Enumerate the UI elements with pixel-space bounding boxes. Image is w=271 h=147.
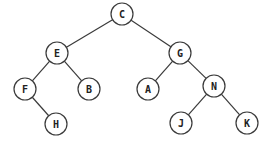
tree-node-f: F <box>14 78 36 100</box>
edge-f-h <box>32 97 48 116</box>
tree-diagram: CEGFBANHJK <box>0 0 271 147</box>
node-label: E <box>54 48 60 59</box>
edge-g-n <box>188 61 206 79</box>
edge-n-k <box>221 94 239 115</box>
edge-c-g <box>131 20 171 47</box>
edge-n-j <box>188 94 206 115</box>
edge-g-a <box>155 61 172 81</box>
node-label: H <box>53 119 59 130</box>
tree-node-c: C <box>111 3 133 25</box>
node-label: C <box>119 9 125 20</box>
node-label: B <box>86 84 92 95</box>
tree-node-b: B <box>78 78 100 100</box>
edge-c-e <box>66 20 112 48</box>
tree-node-h: H <box>45 113 67 135</box>
tree-node-j: J <box>170 112 192 134</box>
tree-node-a: A <box>137 78 159 100</box>
tree-node-n: N <box>203 75 225 97</box>
edge-e-f <box>32 61 49 81</box>
node-label: N <box>211 81 217 92</box>
node-label: F <box>22 84 28 95</box>
node-label: K <box>244 118 250 129</box>
tree-node-g: G <box>169 42 191 64</box>
tree-edges <box>32 20 239 116</box>
node-label: J <box>178 118 184 129</box>
edge-e-b <box>64 61 81 81</box>
node-label: G <box>177 48 183 59</box>
tree-node-k: K <box>236 112 258 134</box>
node-label: A <box>145 84 151 95</box>
tree-node-e: E <box>46 42 68 64</box>
